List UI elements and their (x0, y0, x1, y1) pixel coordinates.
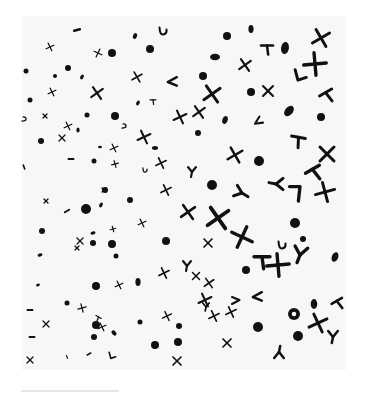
glyph-chev-up (109, 352, 115, 358)
glyph-dot (162, 237, 170, 245)
glyph-dot (207, 180, 217, 190)
glyph-dot (90, 240, 96, 246)
glyph-hook7 (290, 187, 300, 201)
glyph-cross (159, 268, 169, 278)
glyph-dot (174, 338, 182, 346)
glyph-oval (221, 115, 229, 124)
glyph-dash (74, 29, 80, 31)
glyph-cross (208, 208, 229, 229)
glyph-cross (115, 281, 123, 289)
glyph-tee (332, 298, 347, 312)
glyph-dot (146, 45, 154, 53)
glyph-cross (163, 312, 172, 321)
glyph-cross (312, 29, 329, 46)
glyph-cross (193, 273, 200, 280)
glyph-dot (108, 49, 116, 57)
glyph-dot (223, 32, 231, 40)
glyph-dot (65, 65, 71, 71)
glyph-tee (290, 136, 306, 149)
glyph-ychev (234, 185, 251, 200)
glyph-oval (282, 104, 296, 118)
glyph-dot (151, 341, 159, 349)
glyph-dash (65, 210, 69, 213)
glyph-dot (300, 236, 306, 242)
glyph-dot (254, 156, 264, 166)
glyph-dot (290, 218, 300, 228)
glyph-cross (193, 106, 205, 118)
glyph-cross (112, 161, 119, 168)
glyph-oval (132, 33, 138, 40)
glyph-ychev (269, 178, 283, 189)
glyph-dot (108, 240, 116, 248)
glyph-hook (279, 242, 286, 249)
glyph-ychev (183, 261, 191, 271)
glyph-oval (98, 202, 103, 208)
glyph-dash (23, 165, 24, 169)
glyph-dot (65, 301, 70, 306)
glyph-oval (135, 278, 140, 286)
glyph-cross (77, 238, 83, 244)
scanned-texture-image: Scanned printed texture of scattered bla… (0, 0, 367, 393)
glyph-hook (160, 28, 167, 35)
glyph-oval (135, 100, 140, 106)
glyph-ychev (188, 167, 196, 177)
glyph-ychev (292, 246, 307, 264)
glyph-dot (247, 88, 255, 96)
glyph-dot (91, 334, 97, 340)
glyph-dot (39, 228, 45, 234)
glyph-cross (239, 59, 251, 71)
glyph-dot (127, 197, 133, 203)
glyph-cross (138, 219, 146, 227)
glyph-cross (173, 357, 181, 365)
glyph-chev (168, 77, 177, 85)
glyph-dot (111, 112, 119, 120)
glyph-cross (44, 199, 48, 203)
glyph-cross (174, 111, 187, 124)
glyph-cross (156, 158, 166, 168)
glyph-hook (122, 124, 126, 128)
glyph-chev-up (295, 70, 306, 81)
glyph-pattern (0, 0, 367, 393)
glyph-cross (110, 144, 118, 152)
glyph-cross (209, 311, 219, 321)
glyph-cross (204, 278, 213, 287)
glyph-dot (176, 323, 182, 329)
glyph-dot (293, 331, 303, 341)
glyph-oval (111, 329, 118, 336)
glyph-oval (248, 25, 253, 33)
glyph-cross (204, 86, 220, 102)
glyph-cross (43, 114, 47, 118)
glyph-oval (330, 251, 340, 263)
glyph-oval (280, 41, 290, 54)
glyph-dot (253, 322, 263, 332)
glyph-cross (228, 148, 243, 163)
glyph-cross (48, 88, 56, 96)
glyph-cross (59, 135, 65, 141)
glyph-cross (64, 122, 72, 130)
glyph-dot (28, 98, 33, 103)
glyph-cross (232, 227, 253, 248)
glyph-chev (253, 292, 262, 300)
glyph-oval (79, 74, 84, 80)
glyph-oval (98, 145, 102, 148)
glyph-cross (320, 147, 334, 161)
glyph-ychev (274, 346, 284, 358)
glyph-dot (114, 254, 119, 259)
bottom-rule-line (21, 390, 119, 392)
glyph-ychev (328, 331, 338, 343)
glyph-dot (53, 74, 57, 78)
glyph-dot (199, 72, 207, 80)
glyph-cross (226, 307, 236, 317)
glyph-dot (24, 69, 29, 74)
glyph-dot (102, 187, 108, 193)
glyph-dot (242, 266, 250, 274)
glyph-oval (90, 231, 95, 235)
glyph-dot (138, 320, 143, 325)
glyph-oval (152, 146, 158, 150)
glyph-cross (304, 53, 327, 76)
glyph-cross (43, 321, 49, 327)
glyph-hook (22, 117, 26, 121)
glyph-dot (38, 138, 44, 144)
glyph-cross (46, 43, 54, 51)
glyph-dot (92, 159, 97, 164)
